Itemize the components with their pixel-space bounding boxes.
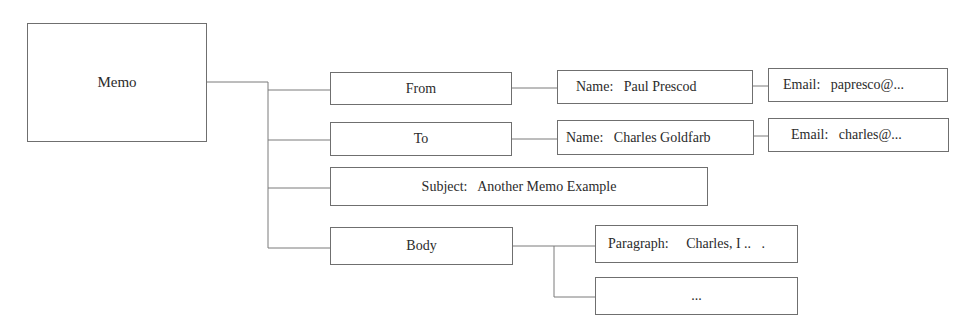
from-node: From <box>330 72 512 105</box>
from-label: From <box>406 81 436 97</box>
from-email-node: Email: papresco@... <box>768 68 948 102</box>
to-name-node: Name: Charles Goldfarb <box>557 120 754 155</box>
from-name-text: Name: Paul Prescod <box>576 79 697 95</box>
more-node: ... <box>595 277 798 315</box>
from-email-text: Email: papresco@... <box>783 77 904 93</box>
body-node: Body <box>330 227 513 265</box>
subject-node: Subject: Another Memo Example <box>330 167 708 206</box>
paragraph-text: Paragraph: Charles, I .. . <box>608 236 765 252</box>
to-name-text: Name: Charles Goldfarb <box>566 130 711 146</box>
paragraph-node: Paragraph: Charles, I .. . <box>595 225 798 263</box>
body-label: Body <box>406 238 436 254</box>
from-name-node: Name: Paul Prescod <box>557 70 753 104</box>
ellipsis-text: ... <box>691 288 702 304</box>
to-email-node: Email: charles@... <box>768 118 949 152</box>
memo-node: Memo <box>27 23 207 142</box>
subject-text: Subject: Another Memo Example <box>422 179 617 195</box>
memo-label: Memo <box>97 74 136 91</box>
to-node: To <box>330 122 512 156</box>
to-email-text: Email: charles@... <box>791 127 902 143</box>
to-label: To <box>414 131 429 147</box>
